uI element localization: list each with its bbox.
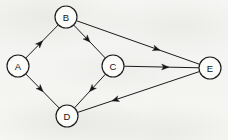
node-label: E xyxy=(207,63,214,74)
edge-line xyxy=(78,72,199,113)
node-label: A xyxy=(15,61,22,72)
node-d[interactable]: D xyxy=(56,105,78,127)
edge-b-to-c xyxy=(74,25,105,57)
node-c[interactable]: C xyxy=(102,55,124,77)
node-e[interactable]: E xyxy=(199,57,221,79)
edge-c-to-d xyxy=(75,75,105,108)
directed-graph: ABCDE xyxy=(0,0,228,140)
edge-line xyxy=(125,66,199,68)
node-label: D xyxy=(63,111,70,122)
graph-diagram-canvas: ABCDE xyxy=(0,0,228,140)
edge-a-to-b xyxy=(26,25,58,57)
edge-e-to-d xyxy=(78,72,199,113)
node-b[interactable]: B xyxy=(55,6,77,28)
node-a[interactable]: A xyxy=(7,55,29,77)
node-label: C xyxy=(109,61,116,72)
edge-line xyxy=(77,21,199,64)
node-label: B xyxy=(63,12,70,23)
edge-b-to-e xyxy=(77,21,199,64)
edge-a-to-d xyxy=(26,74,59,107)
node-layer: ABCDE xyxy=(7,6,221,127)
edge-c-to-e xyxy=(125,64,199,70)
